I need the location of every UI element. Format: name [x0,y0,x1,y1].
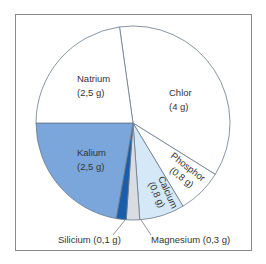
chlor-value: (4 g) [169,101,189,112]
kalium-value: (2,5 g) [77,161,104,172]
magnesium-label: Magnesium (0,3 g) [151,234,230,245]
kalium-label: Kalium [77,147,106,158]
natrium-value: (2,5 g) [77,87,104,98]
silicium-leader-line [113,220,125,235]
pie-chart: Natrium (2,5 g) Chlor (4 g) Kalium (2,5 … [0,0,266,264]
pie-slices [36,26,230,220]
magnesium-leader-line [141,220,151,235]
chlor-label: Chlor [169,87,192,98]
natrium-label: Natrium [77,73,110,84]
silicium-label: Silicium (0,1 g) [58,234,121,245]
